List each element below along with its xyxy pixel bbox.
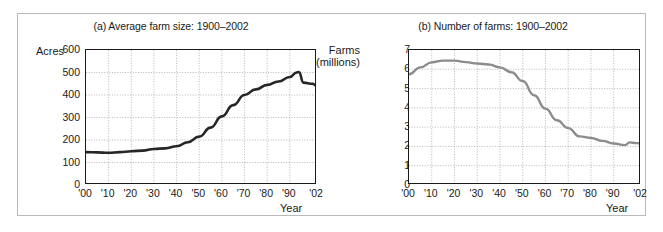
y-tick-label: 600 [62, 44, 80, 55]
chart-a-x-axis-label: Year [280, 202, 302, 214]
x-tick-label: '90 [276, 188, 302, 199]
chart-a-x-ticks: '00'10'20'30'40'50'60'70'80'90'02 [85, 188, 316, 202]
chart-b-y-axis-label: Farms (millions) [306, 44, 360, 68]
chart-b-x-axis-label: Year [606, 202, 628, 214]
chart-panel-b: (b) Number of farms: 1900–2002 Farms (mi… [348, 14, 645, 215]
x-tick-label: '02 [303, 188, 329, 199]
chart-b-y-axis-label-line1: Farms [329, 44, 360, 56]
data-series-line [409, 61, 640, 145]
chart-a-title: (a) Average farm size: 1900–2002 [26, 20, 316, 32]
chart-b-y-ticks: 76543210 [386, 49, 410, 184]
chart-b-y-axis-label-line2: (millions) [306, 56, 360, 68]
y-tick-label: 300 [62, 112, 80, 123]
chart-a-y-ticks: 6005004003002001000 [56, 49, 80, 184]
chart-panel-a: (a) Average farm size: 1900–2002 Acres 6… [18, 14, 348, 215]
data-series-line [86, 72, 316, 153]
y-tick-label: 100 [62, 157, 80, 168]
x-tick-label: '90 [600, 188, 626, 199]
y-tick-label: 500 [62, 67, 80, 78]
figure-container: (a) Average farm size: 1900–2002 Acres 6… [17, 13, 646, 216]
y-tick-label: 400 [62, 89, 80, 100]
chart-a-plot-area [85, 49, 316, 184]
chart-b-plot-area [408, 49, 640, 184]
y-tick-label: 200 [62, 134, 80, 145]
chart-b-x-ticks: '00'10'20'30'40'50'60'70'80'90'02 [408, 188, 640, 202]
chart-a-svg [86, 50, 316, 184]
x-tick-label: '02 [627, 188, 653, 199]
chart-b-svg [409, 50, 640, 184]
chart-b-title: (b) Number of farms: 1900–2002 [348, 20, 638, 32]
